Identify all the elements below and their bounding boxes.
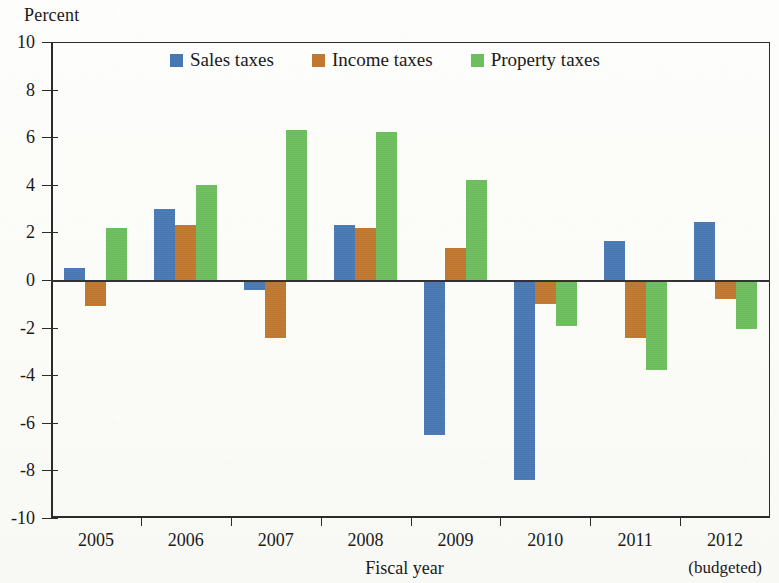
y-axis-tick — [42, 423, 51, 424]
y-axis-tick-inner — [51, 42, 58, 43]
chart-legend: Sales taxesIncome taxesProperty taxes — [170, 50, 600, 70]
legend-swatch-icon — [312, 54, 325, 67]
y-axis-tick-inner — [51, 375, 58, 376]
x-axis-tick — [500, 518, 501, 526]
y-axis-tick-inner — [51, 185, 58, 186]
x-axis-tick-label: 2012 — [680, 530, 770, 550]
x-axis-tick-label: 2010 — [500, 530, 590, 550]
x-axis-title: Fiscal year — [305, 558, 505, 578]
legend-swatch-icon — [471, 54, 484, 67]
bar-sales-taxes-2009 — [424, 280, 445, 435]
x-axis-tick — [231, 518, 232, 526]
bar-sales-taxes-2010 — [514, 280, 535, 480]
y-axis-tick-inner — [51, 328, 58, 329]
y-axis-tick — [42, 137, 51, 138]
axis-top-line — [51, 42, 770, 43]
y-axis-tick — [42, 328, 51, 329]
x-axis-tick — [411, 518, 412, 526]
y-axis-tick — [42, 185, 51, 186]
bar-property-taxes-2010 — [556, 280, 577, 326]
x-axis-tick — [321, 518, 322, 526]
x-axis-tick-label: 2006 — [141, 530, 231, 550]
y-axis-tick-inner — [51, 423, 58, 424]
y-axis-tick — [42, 280, 51, 281]
bar-sales-taxes-2011 — [604, 241, 625, 280]
bar-property-taxes-2011 — [646, 280, 667, 370]
bar-income-taxes-2005 — [85, 280, 106, 306]
legend-item-property-taxes: Property taxes — [471, 50, 600, 70]
legend-label: Property taxes — [491, 50, 600, 70]
legend-swatch-icon — [170, 54, 183, 67]
y-axis-tick-inner — [51, 137, 58, 138]
bar-property-taxes-2008 — [376, 132, 397, 280]
bar-property-taxes-2007 — [286, 130, 307, 280]
zero-baseline — [51, 280, 770, 282]
bar-income-taxes-2010 — [535, 280, 556, 304]
y-axis-tick — [42, 90, 51, 91]
y-axis-tick-label: 8 — [0, 81, 35, 99]
bar-property-taxes-2006 — [196, 185, 217, 280]
y-axis-tick-label: -10 — [0, 509, 35, 527]
bar-income-taxes-2012 — [715, 280, 736, 299]
y-axis-tick-label: -2 — [0, 319, 35, 337]
y-axis-tick-inner — [51, 470, 58, 471]
y-axis-tick — [42, 518, 51, 519]
x-axis-tick-label: 2008 — [321, 530, 411, 550]
bar-income-taxes-2009 — [445, 248, 466, 280]
y-axis-tick-label: -6 — [0, 414, 35, 432]
legend-label: Sales taxes — [190, 50, 274, 70]
bar-income-taxes-2006 — [175, 225, 196, 280]
budgeted-note: (budgeted) — [670, 558, 779, 577]
legend-item-income-taxes: Income taxes — [312, 50, 433, 70]
chart-figure: Percent 1086420-2-4-6-8-10 2005200620072… — [0, 0, 779, 583]
x-axis-tick — [680, 518, 681, 526]
y-axis-tick-label: 0 — [0, 271, 35, 289]
bar-property-taxes-2012 — [736, 280, 757, 329]
y-axis-title: Percent — [24, 4, 79, 26]
legend-label: Income taxes — [332, 50, 433, 70]
y-axis-tick-inner — [51, 232, 58, 233]
y-axis-tick-label: 4 — [0, 176, 35, 194]
bar-income-taxes-2011 — [625, 280, 646, 338]
bar-property-taxes-2005 — [106, 228, 127, 280]
y-axis-tick — [42, 375, 51, 376]
bar-sales-taxes-2008 — [334, 225, 355, 280]
y-axis-tick — [42, 42, 51, 43]
x-axis-tick-label: 2005 — [51, 530, 141, 550]
legend-item-sales-taxes: Sales taxes — [170, 50, 274, 70]
bar-income-taxes-2008 — [355, 228, 376, 280]
bar-sales-taxes-2012 — [694, 222, 715, 280]
x-axis-tick-label: 2007 — [231, 530, 321, 550]
y-axis-tick-label: 10 — [0, 33, 35, 51]
y-axis-tick — [42, 470, 51, 471]
bar-sales-taxes-2005 — [64, 268, 85, 280]
y-axis-tick-inner — [51, 90, 58, 91]
y-axis-tick-label: -4 — [0, 366, 35, 384]
y-axis-tick-label: 6 — [0, 128, 35, 146]
x-axis-tick-label: 2009 — [410, 530, 500, 550]
y-axis-tick-label: 2 — [0, 223, 35, 241]
x-axis-tick — [590, 518, 591, 526]
y-axis-tick-label: -8 — [0, 461, 35, 479]
plot-area — [51, 42, 770, 518]
bar-sales-taxes-2006 — [154, 209, 175, 280]
bar-income-taxes-2007 — [265, 280, 286, 338]
x-axis-tick-label: 2011 — [590, 530, 680, 550]
y-axis-tick-inner — [51, 518, 58, 519]
x-axis-tick — [141, 518, 142, 526]
y-axis-tick — [42, 232, 51, 233]
bar-property-taxes-2009 — [466, 180, 487, 280]
